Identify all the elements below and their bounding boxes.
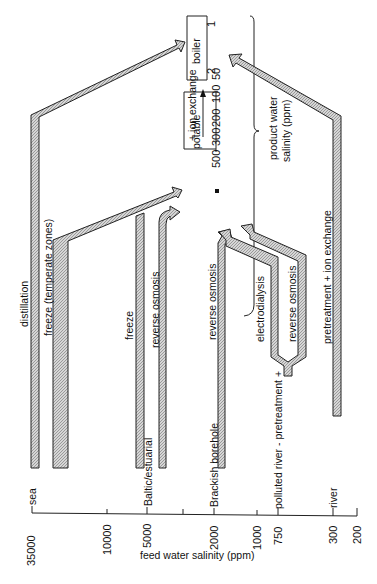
range-ion-exchange: + ion exchange xyxy=(186,69,198,141)
product-axis-title-line2: salinity (ppm) xyxy=(280,100,292,162)
arrow-reverse-osmosis-brackish xyxy=(218,230,232,468)
product-tick-200: 200 xyxy=(210,109,222,127)
desalination-process-diagram: 35000 10000 5000 2000 1000 750 300 200 s… xyxy=(0,0,377,584)
product-axis-title-line1: product water xyxy=(267,96,279,160)
feed-tick-300: 300 xyxy=(327,526,339,544)
feed-salinity-axis: 35000 10000 5000 2000 1000 750 300 200 s… xyxy=(25,371,363,566)
label-pretreatment-ion-exchange: pretreatment + ion exchange xyxy=(321,210,333,344)
source-polluted-river: polluted river - pretreatment + xyxy=(272,371,284,509)
feed-tick-35000: 35000 xyxy=(25,535,37,566)
range-boiler: boiler xyxy=(190,38,202,64)
arrow-freeze xyxy=(136,213,144,468)
feed-axis-title: feed water salinity (ppm) xyxy=(140,549,254,561)
source-river: river xyxy=(327,487,339,508)
feed-tick-750: 750 xyxy=(272,527,284,545)
feed-tick-10000: 10000 xyxy=(101,524,113,555)
label-freeze: freeze xyxy=(123,311,135,340)
product-tick-500: 500 xyxy=(210,150,222,168)
feed-tick-1000: 1000 xyxy=(251,526,263,550)
ion-exchange-arrowhead-icon xyxy=(200,89,206,97)
arrow-reverse-osmosis-baltic xyxy=(159,206,180,468)
product-brace xyxy=(244,16,259,316)
label-reverse-osmosis-1: reverse osmosis xyxy=(149,272,161,348)
label-distillation: distillation xyxy=(18,281,30,327)
product-tick-100: 100 xyxy=(210,85,222,103)
label-reverse-osmosis-2: reverse osmosis xyxy=(206,264,218,340)
label-freeze-temperate: freeze (temperate zones) xyxy=(42,219,54,336)
label-reverse-osmosis-3: reverse osmosis xyxy=(286,266,298,342)
feed-tick-2000: 2000 xyxy=(208,526,220,550)
feed-tick-200: 200 xyxy=(351,526,363,544)
product-tick-300: 300 xyxy=(210,128,222,146)
label-electrodialysis: electrodialysis xyxy=(254,276,266,342)
source-sea: sea xyxy=(26,488,38,505)
marker-square-icon xyxy=(215,189,219,193)
product-tick-2: 2 xyxy=(205,68,217,74)
feed-tick-5000: 5000 xyxy=(141,524,153,548)
product-tick-1: 1 xyxy=(205,21,217,27)
